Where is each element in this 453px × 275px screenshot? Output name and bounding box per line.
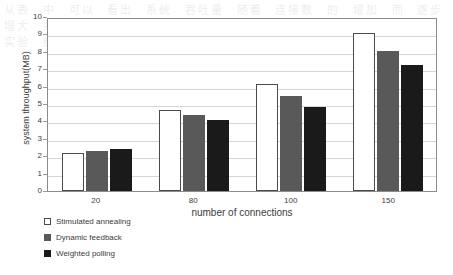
bar[interactable] bbox=[304, 107, 326, 191]
bar-group bbox=[48, 19, 145, 191]
bar-group bbox=[145, 19, 242, 191]
legend-swatch-icon bbox=[44, 234, 51, 241]
y-tick-label: 5 bbox=[26, 100, 42, 108]
y-tick-label: 6 bbox=[26, 83, 42, 91]
bar[interactable] bbox=[207, 120, 229, 191]
bar[interactable] bbox=[353, 33, 375, 191]
y-tick-label: 7 bbox=[26, 65, 42, 73]
y-axis-tick-labels: 012345678910 bbox=[26, 13, 42, 193]
bar[interactable] bbox=[159, 110, 181, 191]
legend-swatch-icon bbox=[44, 218, 51, 225]
legend-label: Weighted polling bbox=[56, 249, 115, 258]
y-tick-label: 0 bbox=[26, 187, 42, 195]
legend-item[interactable]: Dynamic feedback bbox=[44, 229, 204, 245]
y-tick-label: 1 bbox=[26, 170, 42, 178]
bar-group bbox=[339, 19, 436, 191]
bar[interactable] bbox=[62, 153, 84, 191]
bar[interactable] bbox=[377, 51, 399, 191]
y-tick-label: 3 bbox=[26, 135, 42, 143]
legend-item[interactable]: Stimulated annealing bbox=[44, 213, 204, 229]
y-tick-label: 8 bbox=[26, 48, 42, 56]
bar[interactable] bbox=[110, 149, 132, 191]
bar[interactable] bbox=[86, 151, 108, 191]
bar[interactable] bbox=[256, 84, 278, 191]
bar[interactable] bbox=[280, 96, 302, 191]
bar-chart-figure: system throughput(MB) 012345678910 20801… bbox=[0, 0, 453, 275]
legend-label: Dynamic feedback bbox=[56, 233, 122, 242]
legend-item[interactable]: Weighted polling bbox=[44, 245, 204, 261]
bar-group bbox=[242, 19, 339, 191]
bar-groups bbox=[48, 19, 436, 191]
chart-legend: Stimulated annealingDynamic feedbackWeig… bbox=[44, 213, 204, 261]
y-tick-label: 10 bbox=[26, 13, 42, 21]
bar[interactable] bbox=[183, 115, 205, 191]
legend-label: Stimulated annealing bbox=[56, 217, 131, 226]
bar[interactable] bbox=[401, 65, 423, 191]
y-tick-label: 2 bbox=[26, 152, 42, 160]
y-tick-label: 4 bbox=[26, 117, 42, 125]
legend-swatch-icon bbox=[44, 250, 51, 257]
y-tick-label: 9 bbox=[26, 30, 42, 38]
plot-area bbox=[47, 18, 437, 192]
